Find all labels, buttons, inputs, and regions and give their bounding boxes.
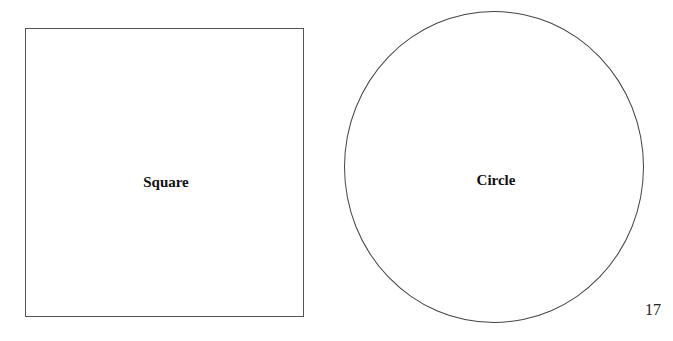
circle-label: Circle — [477, 172, 516, 189]
square-label: Square — [143, 174, 189, 191]
circle-shape — [344, 11, 644, 323]
square-shape — [25, 28, 304, 317]
page-number: 17 — [645, 301, 661, 319]
